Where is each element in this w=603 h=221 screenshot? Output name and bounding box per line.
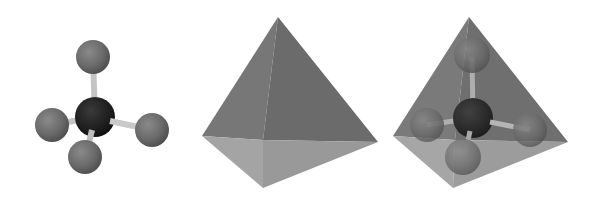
- overlay-atom-bottom: [445, 139, 481, 175]
- overlay-atom-right: [513, 113, 547, 147]
- central-atom: [75, 97, 115, 137]
- diagram-svg: [0, 0, 603, 221]
- tetrahedron-with-molecule: [393, 17, 568, 188]
- diagram-canvas: [0, 0, 603, 221]
- outer-atom-left: [35, 108, 69, 142]
- face-right-top: [263, 17, 378, 142]
- tetrahedron-solid: [202, 17, 378, 188]
- face-left-bottom: [202, 136, 263, 188]
- overlay-atom-top: [454, 37, 490, 73]
- overlay-central-atom: [453, 98, 493, 138]
- outer-atom-right: [135, 113, 169, 147]
- overlay-face-left-bottom: [393, 136, 455, 188]
- outer-atom-bottom: [68, 140, 102, 174]
- overlay-atom-left: [410, 108, 444, 142]
- face-right-bottom: [263, 140, 378, 188]
- ball-and-stick-model: [35, 40, 169, 174]
- outer-atom-top: [76, 40, 110, 74]
